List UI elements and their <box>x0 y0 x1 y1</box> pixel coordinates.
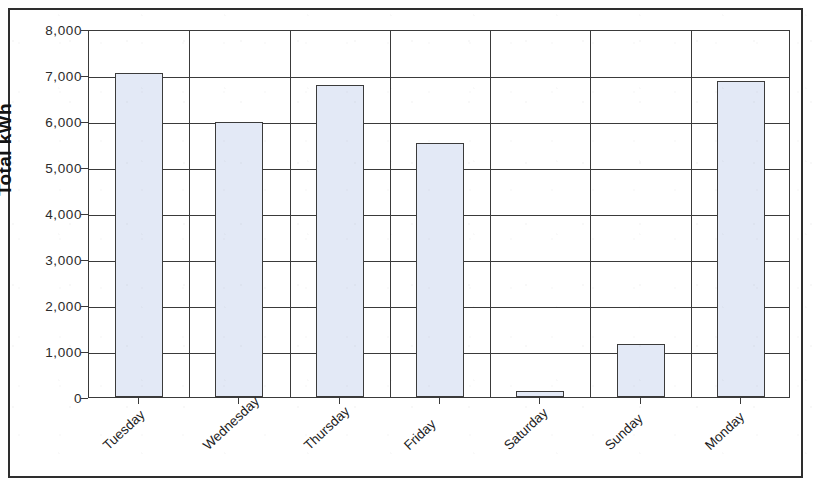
x-axis-label-monday: Monday <box>702 409 747 453</box>
x-tick-mark-wednesday <box>238 398 239 404</box>
x-axis-label-tuesday: Tuesday <box>100 407 148 453</box>
x-axis-label-saturday: Saturday <box>501 405 551 453</box>
x-tick-mark-saturday <box>539 398 540 404</box>
x-tick-mark-monday <box>740 398 741 404</box>
x-tick-mark-thursday <box>339 398 340 404</box>
x-tick-mark-tuesday <box>138 398 139 404</box>
x-axis-label-wednesday: Wednesday <box>200 394 262 453</box>
x-tick-mark-sunday <box>640 398 641 404</box>
x-axis-label-sunday: Sunday <box>602 411 646 453</box>
x-tick-mark-friday <box>439 398 440 404</box>
x-axis-label-thursday: Thursday <box>301 404 352 453</box>
x-axis-label-friday: Friday <box>401 416 439 453</box>
